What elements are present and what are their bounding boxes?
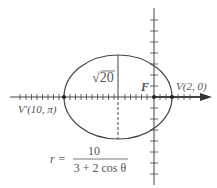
- polar-equation: r = 10 3 + 2 cos θ: [50, 144, 128, 175]
- vertex-right-point: [170, 95, 174, 99]
- vertex-left-label: V′(10, π): [18, 103, 57, 116]
- focus-label: F: [140, 80, 149, 94]
- equation-denominator: 3 + 2 cos θ: [74, 161, 127, 175]
- vertex-right-label: V(2, 0): [176, 80, 207, 93]
- arrow-icon: [200, 93, 212, 101]
- ellipse-diagram: √20 F V(2, 0) V′(10, π) r = 10 3 + 2 cos…: [0, 0, 217, 188]
- semi-minor-label: √20: [92, 70, 114, 85]
- focus-point: [152, 95, 156, 99]
- polar-axis: [10, 94, 205, 100]
- vertex-left-point: [62, 95, 66, 99]
- equation-lhs: r =: [50, 152, 66, 166]
- equation-numerator: 10: [88, 144, 100, 158]
